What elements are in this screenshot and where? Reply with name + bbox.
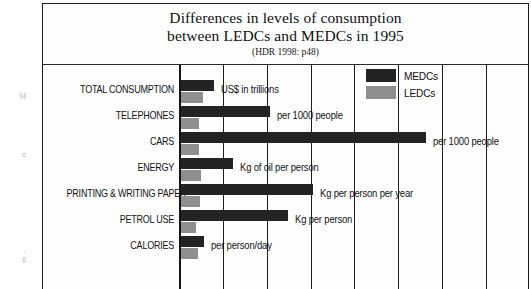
bar-medcs bbox=[180, 210, 288, 221]
legend-item-ledcs: LEDCs bbox=[366, 85, 443, 100]
bar-medcs bbox=[180, 132, 426, 143]
unit-annotation: Kg of oil per person bbox=[240, 161, 319, 173]
chart-row: PRINTING & WRITING PAPERKg per person pe… bbox=[43, 183, 528, 209]
category-label-petrol-use: PETROL USE bbox=[67, 213, 174, 225]
chart-value-axis bbox=[179, 65, 181, 289]
chart-row: ENERGYKg of oil per person bbox=[43, 157, 528, 183]
chart-row: CARSper 1000 people bbox=[43, 131, 528, 157]
category-label-total-consumption: TOTAL CONSUMPTION bbox=[67, 83, 174, 95]
category-label-cars: CARS bbox=[67, 135, 174, 147]
unit-annotation: US$ in trillions bbox=[221, 83, 279, 95]
unit-annotation: per 1000 people bbox=[433, 135, 499, 147]
legend-swatch-medcs-icon bbox=[366, 69, 396, 82]
bar-ledcs bbox=[180, 248, 198, 259]
bar-ledcs bbox=[180, 170, 201, 181]
unit-annotation: Kg per person bbox=[295, 213, 352, 225]
chart-row: TOTAL CONSUMPTIONUS$ in trillions bbox=[43, 79, 528, 105]
page-bleed-fragment-2: n bbox=[0, 150, 26, 159]
bar-ledcs bbox=[180, 196, 200, 207]
screenshot-page: M n , g Differences in levels of consump… bbox=[0, 0, 531, 289]
bar-ledcs bbox=[180, 144, 199, 155]
chart-title-line-2: between LEDCs and MEDCs in 1995 bbox=[43, 27, 528, 45]
page-bleed-fragment-1: M bbox=[0, 92, 26, 101]
bar-ledcs bbox=[180, 222, 196, 233]
page-bleed-fragment-4: , g bbox=[0, 245, 26, 263]
legend-item-medcs: MEDCs bbox=[366, 68, 443, 83]
legend-label-medcs: MEDCs bbox=[404, 70, 438, 82]
chart-title-line-1: Differences in levels of consumption bbox=[43, 9, 528, 27]
bar-ledcs bbox=[180, 118, 199, 129]
unit-annotation: per 1000 people bbox=[277, 109, 343, 121]
chart-row: TELEPHONESper 1000 people bbox=[43, 105, 528, 131]
legend-swatch-ledcs-icon bbox=[366, 86, 396, 99]
chart-source-citation: (HDR 1998: p48) bbox=[43, 46, 528, 58]
category-label-energy: ENERGY bbox=[67, 161, 174, 173]
chart-row: PETROL USEKg per person bbox=[43, 209, 528, 235]
chart-figure: Differences in levels of consumption bet… bbox=[42, 3, 529, 289]
bar-ledcs bbox=[180, 92, 203, 103]
chart-legend: MEDCs LEDCs bbox=[366, 68, 443, 102]
unit-annotation: Kg per person per year bbox=[320, 187, 413, 199]
unit-annotation: per person/day bbox=[211, 239, 272, 251]
bar-medcs bbox=[180, 158, 233, 169]
chart-title-block: Differences in levels of consumption bet… bbox=[43, 4, 528, 65]
legend-label-ledcs: LEDCs bbox=[404, 87, 435, 99]
bar-medcs bbox=[180, 236, 204, 247]
chart-row: CALORIESper person/day bbox=[43, 235, 528, 261]
bar-medcs bbox=[180, 80, 214, 91]
category-label-calories: CALORIES bbox=[67, 239, 174, 251]
bar-medcs bbox=[180, 184, 313, 195]
bar-medcs bbox=[180, 106, 270, 117]
chart-bar-rows: TOTAL CONSUMPTIONUS$ in trillionsTELEPHO… bbox=[43, 65, 528, 289]
chart-plot-area: TOTAL CONSUMPTIONUS$ in trillionsTELEPHO… bbox=[43, 65, 528, 289]
category-label-printing-writing-paper: PRINTING & WRITING PAPER bbox=[67, 187, 174, 199]
category-label-telephones: TELEPHONES bbox=[67, 109, 174, 121]
